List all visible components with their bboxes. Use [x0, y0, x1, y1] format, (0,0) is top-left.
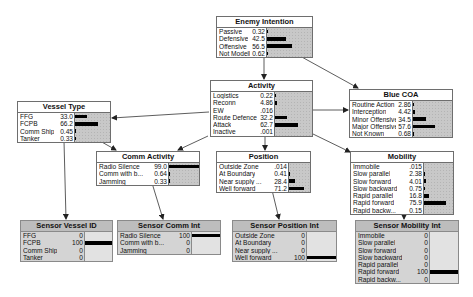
state-row[interactable]: Rapid forward75.9: [353, 199, 422, 206]
state-row[interactable]: Outside Zone.014: [219, 163, 287, 170]
state-row[interactable]: FFG0: [23, 232, 83, 239]
state-row[interactable]: Jamming0: [120, 247, 190, 254]
node-sensor-mobility-int[interactable]: Sensor Mobility IntImmobile0Slow paralle…: [355, 220, 459, 284]
state-row[interactable]: Rapid parallel0: [358, 261, 428, 268]
state-list: Passive0.32Defensive42.5Offensive56.5Not…: [217, 28, 267, 57]
state-row[interactable]: Slow forward4.01: [353, 178, 422, 185]
belief-bar: [169, 165, 199, 169]
edge-arrow: [272, 190, 279, 219]
state-row[interactable]: Tanker0.33: [20, 135, 73, 142]
state-row[interactable]: Outside Zone0: [235, 232, 305, 239]
state-value: 0.41: [272, 170, 287, 177]
state-row[interactable]: Immobile.015: [353, 163, 422, 170]
edge-arrow: [313, 134, 350, 152]
state-row[interactable]: Reconn4.86: [213, 99, 273, 106]
state-value: 28.4: [272, 178, 287, 185]
state-row[interactable]: Rapid parallel16.8: [353, 192, 422, 199]
state-label: Comm Ship: [23, 247, 57, 254]
node-sensor-position-int[interactable]: Sensor Position IntOutside Zone0At Bound…: [232, 220, 337, 262]
state-row[interactable]: Tanker0: [23, 254, 83, 261]
state-row[interactable]: Defensive42.5: [219, 35, 265, 42]
belief-bar: [85, 241, 112, 245]
belief-bars: [424, 163, 453, 214]
state-value: 0.32: [250, 28, 265, 35]
node-mobility[interactable]: MobilityImmobile.015Slow parallel2.38Slo…: [350, 151, 454, 215]
state-row[interactable]: Radio Silence99.0: [99, 163, 167, 170]
state-label: Slow parallel: [353, 170, 390, 177]
state-value: 66.2: [58, 120, 73, 127]
node-blue-coa[interactable]: Blue COARoutine Action2.86Interception4.…: [349, 89, 453, 138]
state-list: Radio Silence99.0Comm with b...0.64Jammi…: [97, 163, 169, 185]
node-sensor-comm-int[interactable]: Sensor Comm IntRadio Silence100Comm with…: [117, 220, 221, 255]
state-row[interactable]: Radio Silence100: [120, 232, 190, 239]
state-value: 0.75: [407, 185, 422, 192]
state-row[interactable]: Slow parallel0: [358, 239, 428, 246]
state-list: Outside Zone0At Boundary0Near supply ...…: [233, 232, 307, 261]
state-row[interactable]: Comm Ship0.45: [20, 128, 73, 135]
state-label: Route Defence: [213, 114, 257, 121]
state-row[interactable]: Not Modelled0.62: [219, 50, 265, 57]
state-row[interactable]: Minor Offensive34.5: [352, 116, 411, 123]
state-label: Outside Zone: [219, 163, 259, 170]
state-row[interactable]: Offensive56.5: [219, 43, 265, 50]
state-label: FFG: [23, 232, 36, 239]
state-value: 32.2: [258, 114, 273, 121]
state-row[interactable]: Rapid backw...0.15: [353, 207, 422, 214]
state-row[interactable]: Near supply ...0: [235, 247, 305, 254]
state-row[interactable]: Near supply ...28.4: [219, 178, 287, 185]
state-label: Passive: [219, 28, 242, 35]
state-row[interactable]: Well forward71.2: [219, 185, 287, 192]
state-row[interactable]: Routine Action2.86: [352, 101, 411, 108]
state-row[interactable]: At Boundary0: [235, 239, 305, 246]
state-value: 62.7: [258, 121, 273, 128]
belief-bar: [275, 116, 287, 120]
node-position[interactable]: PositionOutside Zone.014At Boundary0.41N…: [216, 151, 311, 193]
node-comm-activity[interactable]: Comm ActivityRadio Silence99.0Comm with …: [96, 151, 200, 186]
state-row[interactable]: Slow forward0: [358, 247, 428, 254]
state-value: 0.15: [407, 207, 422, 214]
state-row[interactable]: Passive0.32: [219, 28, 265, 35]
state-value: 56.5: [250, 43, 265, 50]
state-list: Outside Zone.014At Boundary0.41Near supp…: [217, 163, 289, 192]
state-row[interactable]: Slow backward0.75: [353, 185, 422, 192]
node-activity[interactable]: ActivityLogistics0.22Reconn4.86EW.016Rou…: [210, 80, 313, 137]
node-vessel-type[interactable]: Vessel TypeFFG33.0FCPB66.2Comm Ship0.45T…: [17, 101, 111, 143]
state-value: 0.68: [396, 130, 411, 137]
state-label: Well forward: [219, 185, 256, 192]
state-row[interactable]: Rapid forward100: [358, 268, 428, 275]
state-row[interactable]: Interception4.42: [352, 108, 411, 115]
state-row[interactable]: Comm with b...0: [120, 239, 190, 246]
state-value: 100: [292, 254, 305, 261]
state-row[interactable]: Slow parallel2.38: [353, 170, 422, 177]
state-label: Rapid backw...: [358, 276, 401, 283]
state-row[interactable]: Major Offensive57.6: [352, 123, 411, 130]
node-sensor-vessel-id[interactable]: Sensor Vessel IDFFG0FCPB100Comm Ship0Tan…: [20, 220, 113, 262]
state-label: Logistics: [213, 92, 239, 99]
state-label: Outside Zone: [235, 232, 275, 239]
state-row[interactable]: Route Defence32.2: [213, 114, 273, 121]
state-row[interactable]: FCPB66.2: [20, 120, 73, 127]
state-row[interactable]: FFG33.0: [20, 113, 73, 120]
state-row[interactable]: Immobile0: [358, 232, 428, 239]
node-enemy-intention[interactable]: Enemy IntentionPassive0.32Defensive42.5O…: [216, 16, 313, 58]
state-row[interactable]: Well forward100: [235, 254, 305, 261]
state-label: Offensive: [219, 43, 247, 50]
state-row[interactable]: Logistics0.22: [213, 92, 273, 99]
state-label: Near supply ...: [219, 178, 262, 185]
state-label: At Boundary: [219, 170, 255, 177]
state-row[interactable]: Jamming0.33: [99, 178, 167, 185]
belief-bar: [192, 234, 220, 238]
state-row[interactable]: Rapid backw...0: [358, 276, 428, 283]
node-title: Comm Activity: [97, 152, 199, 163]
state-row[interactable]: Comm with b...0.64: [99, 170, 167, 177]
state-row[interactable]: At Boundary0.41: [219, 170, 287, 177]
state-row[interactable]: Slow backward0: [358, 254, 428, 261]
state-row[interactable]: EW.016: [213, 107, 273, 114]
state-row[interactable]: Not Known0.68: [352, 130, 411, 137]
state-row[interactable]: Inactive.001: [213, 128, 273, 135]
edge-arrow: [152, 183, 163, 219]
state-row[interactable]: Attack62.7: [213, 121, 273, 128]
state-value: 0: [299, 232, 305, 239]
state-row[interactable]: FCPB100: [23, 239, 83, 246]
state-row[interactable]: Comm Ship0: [23, 247, 83, 254]
